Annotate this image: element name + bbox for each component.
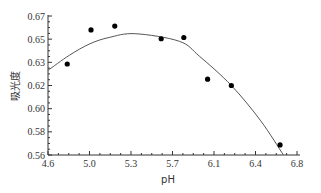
- y-axis-title: 吸光度: [9, 71, 21, 101]
- data-point: [205, 77, 210, 82]
- data-points: [65, 24, 283, 148]
- fit-curve: [48, 34, 283, 155]
- y-tick-label: 0.65: [28, 34, 46, 45]
- x-axis-title: pH: [161, 174, 175, 185]
- x-tick-label: 6.8: [291, 158, 304, 169]
- x-tick-label: 6.4: [249, 158, 262, 169]
- data-point: [112, 24, 117, 29]
- y-tick-label: 0.60: [28, 103, 46, 114]
- y-tick-label: 0.63: [28, 57, 46, 68]
- y-tick-label: 0.62: [28, 80, 46, 91]
- data-point: [65, 61, 70, 66]
- data-point: [277, 142, 282, 147]
- y-tick-label: 0.67: [28, 11, 46, 22]
- y-tick-label: 0.58: [28, 126, 46, 137]
- x-tick-label: 5.7: [166, 158, 179, 169]
- x-tick-label: 6.1: [208, 158, 221, 169]
- x-axis-ticks: 4.65.05.35.76.16.46.8: [42, 151, 304, 169]
- x-tick-label: 5.0: [83, 158, 96, 169]
- data-point: [159, 36, 164, 41]
- x-tick-label: 4.6: [42, 158, 55, 169]
- data-point: [88, 27, 93, 32]
- data-point: [181, 35, 186, 40]
- data-point: [229, 83, 234, 88]
- chart: 0.670.650.630.620.600.580.56 4.65.05.35.…: [0, 0, 321, 193]
- x-tick-label: 5.3: [125, 158, 138, 169]
